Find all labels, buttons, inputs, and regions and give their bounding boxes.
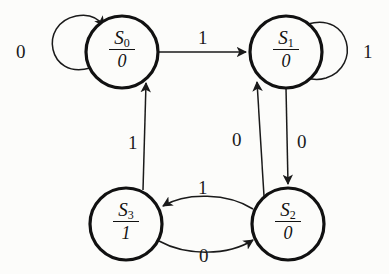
state-node-s2[interactable] [252, 188, 324, 260]
state-node-s0[interactable] [86, 16, 158, 88]
edge-s2-s1 [257, 82, 264, 196]
state-node-s1[interactable] [250, 16, 322, 88]
state-diagram-canvas: S0 0 S1 0 S3 1 S2 0 0 1 1 0 1 0 1 0 [0, 0, 389, 274]
edge-s1-s2 [286, 88, 288, 184]
edge-s3-s2 [159, 240, 253, 252]
diagram-vector-layer [0, 0, 389, 274]
edge-s2-s3 [163, 196, 253, 209]
edge-s3-s0 [143, 83, 146, 190]
state-node-s3[interactable] [90, 188, 162, 260]
